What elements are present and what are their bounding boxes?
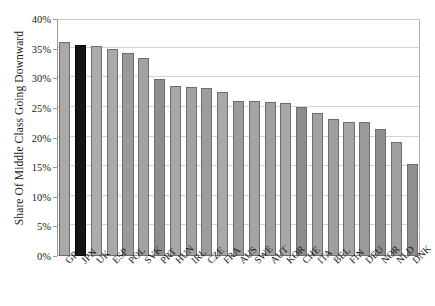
x-axis-tick-label-jpn: JPN <box>79 258 87 266</box>
x-axis-tick-label-pol: POL <box>126 258 134 266</box>
x-axis-tick-label-fra: FRA <box>221 258 229 266</box>
bar-nld <box>391 142 402 256</box>
x-axis-tick-labels: GRCJPNUKESPPOLSVKPRTHUNIRLCZEFRAAUSSWEAU… <box>57 256 420 306</box>
x-axis-tick-label-nld: NLD <box>394 258 402 266</box>
x-axis-tick-label-aut: AUT <box>268 258 276 266</box>
bar-fra <box>217 92 228 256</box>
bar-ita <box>312 113 323 256</box>
x-axis-tick-label-che: CHE <box>300 258 308 266</box>
bar-bel <box>328 119 339 256</box>
x-axis-tick-label-grc: GRC <box>63 258 71 266</box>
x-axis-tick-label-hun: HUN <box>173 258 181 266</box>
y-axis-tick-label: 30% <box>32 73 51 84</box>
y-axis-tick-label: 40% <box>32 14 51 25</box>
bar-series <box>57 19 420 256</box>
bar-swe <box>249 101 260 256</box>
bar-jpn <box>75 45 86 256</box>
x-axis-tick-label-swe: SWE <box>252 258 260 266</box>
bar-deu <box>359 122 370 256</box>
y-axis-tick-label: 15% <box>32 162 51 173</box>
x-axis-tick-label-deu: DEU <box>363 258 371 266</box>
bar-fin <box>343 122 354 256</box>
bar-kor <box>280 103 291 256</box>
y-axis-tick-label: 10% <box>32 191 51 202</box>
bar-aut <box>265 102 276 256</box>
bar-pol <box>122 53 133 256</box>
bar-aus <box>233 101 244 256</box>
bar-cze <box>201 88 212 256</box>
y-axis-tick-label: 5% <box>37 221 51 232</box>
x-axis-tick-label-prt: PRT <box>158 258 166 266</box>
bar-prt <box>154 79 165 256</box>
bar-svk <box>138 58 149 256</box>
x-axis-tick-label-bel: BEL <box>331 258 339 266</box>
bar-esp <box>107 49 118 256</box>
bar-grc <box>59 42 70 256</box>
x-axis-tick-label-esp: ESP <box>110 258 118 266</box>
bar-che <box>296 107 307 256</box>
bar-hun <box>170 86 181 256</box>
y-axis-tick-label: 0% <box>37 251 51 262</box>
x-axis-tick-label-nor: NOR <box>379 258 387 266</box>
x-axis-tick-label-aus: AUS <box>237 258 245 266</box>
bar-nor <box>375 129 386 256</box>
y-axis-tick-label: 35% <box>32 43 51 54</box>
x-axis-tick-label-fin: FIN <box>347 258 355 266</box>
x-axis-tick-label-uk: UK <box>94 258 102 266</box>
x-axis-tick-label-cze: CZE <box>205 258 213 266</box>
x-axis-tick-label-svk: SVK <box>142 258 150 266</box>
x-axis-tick-label-ita: ITA <box>315 258 323 266</box>
y-axis-tick-labels: 0%5%10%15%20%25%30%35%40% <box>0 0 55 306</box>
x-axis-tick-label-kor: KOR <box>284 258 292 266</box>
bar-chart: Share Of Middle Class Going Downward 0%5… <box>0 0 435 306</box>
y-axis-tick-label: 20% <box>32 132 51 143</box>
x-axis-tick-label-irl: IRL <box>189 258 197 266</box>
bar-irl <box>186 87 197 256</box>
bar-uk <box>91 46 102 256</box>
y-axis-tick-label: 25% <box>32 102 51 113</box>
x-axis-tick-label-dnk: DNK <box>410 258 418 266</box>
